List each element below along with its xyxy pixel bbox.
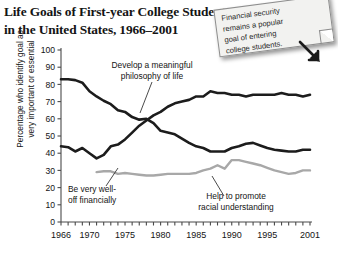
y-tick-label: 80: [45, 80, 55, 90]
y-tick-label: 10: [45, 200, 55, 210]
y-tick-label: 90: [45, 62, 55, 72]
x-tick-label: 1966: [51, 230, 71, 240]
y-tick-label: 40: [45, 148, 55, 158]
series-line: [97, 160, 310, 175]
chart-root: Life Goals of First-year College Student…: [0, 0, 338, 256]
y-tick-label: 70: [45, 97, 55, 107]
y-tick-label: 30: [45, 166, 55, 176]
x-tick-label: 1970: [79, 230, 99, 240]
annotation-leader-line: [140, 82, 152, 113]
x-tick-label: 1975: [115, 230, 135, 240]
series-line: [61, 79, 310, 151]
x-tick-label: 2001: [300, 230, 320, 240]
y-tick-label: 50: [45, 131, 55, 141]
y-tick-label: 100: [41, 45, 56, 55]
data-series: [61, 79, 310, 175]
x-tick-label: 1995: [257, 230, 277, 240]
y-tick-label: 60: [45, 114, 55, 124]
plot-area: 0102030405060708090100196619701975198019…: [0, 0, 338, 256]
y-tick-label: 0: [50, 217, 55, 227]
axes: 0102030405060708090100196619701975198019…: [41, 45, 320, 240]
y-tick-label: 20: [45, 183, 55, 193]
note-arrow-icon: [300, 42, 320, 62]
x-tick-label: 1990: [222, 230, 242, 240]
x-tick-label: 1985: [186, 230, 206, 240]
x-tick-label: 1980: [151, 230, 171, 240]
annotation-leader-line: [212, 176, 224, 196]
